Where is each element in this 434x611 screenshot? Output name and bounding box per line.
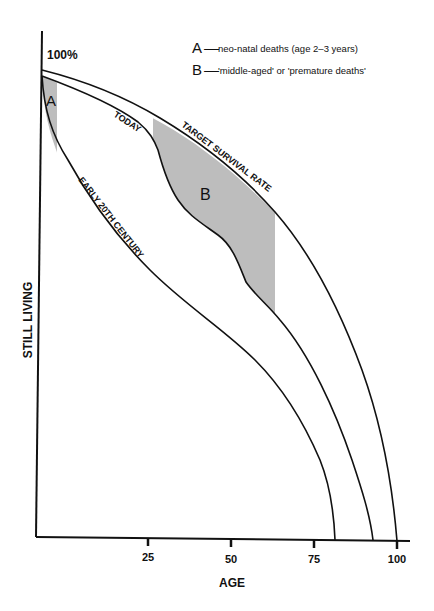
legend-a-dash: —: [204, 39, 219, 56]
y-top-label: 100%: [47, 48, 78, 62]
shaded-region-a: [42, 76, 60, 160]
legend-a-text: neo-natal deaths (age 2–3 years): [218, 43, 358, 54]
tick-label-25: 25: [142, 551, 154, 563]
x-axis: [36, 537, 410, 541]
legend-b-key: B: [192, 61, 202, 78]
legend: A — neo-natal deaths (age 2–3 years) B —…: [192, 39, 366, 78]
curve-label-today: TODAY: [112, 109, 143, 134]
tick-label-100: 100: [388, 553, 406, 565]
tick-label-75: 75: [308, 553, 320, 565]
region-b-label: B: [200, 186, 211, 203]
y-axis-label: STILL LIVING: [21, 282, 35, 358]
x-axis-label: AGE: [219, 576, 245, 590]
tick-label-50: 50: [225, 553, 237, 565]
region-a-label: A: [46, 92, 56, 109]
curve-target-survival: [42, 70, 397, 541]
y-axis: [36, 31, 42, 537]
legend-b-text: 'middle-aged' or 'premature deaths': [218, 65, 366, 76]
legend-a-key: A: [192, 39, 202, 56]
legend-b-dash: —: [204, 61, 219, 78]
survival-chart: 100% STILL LIVING AGE 25 50 75 100 A B T…: [0, 0, 434, 611]
curve-label-early: EARLY 20TH CENTURY: [76, 175, 145, 260]
